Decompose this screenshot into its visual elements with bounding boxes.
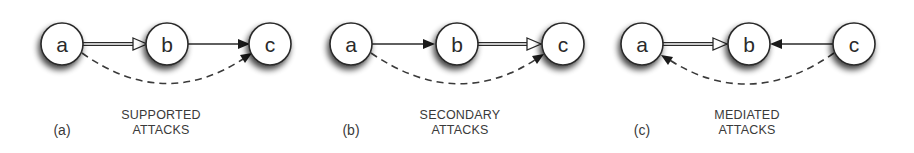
arrowhead-icon — [661, 55, 673, 65]
panel-a: a b c SUPPORTED ATTACKS (a) — [41, 23, 291, 138]
argument-diagram: a b c SUPPORTED ATTACKS (a) a b — [0, 0, 914, 153]
node-label: c — [849, 33, 860, 56]
node-label: a — [345, 33, 357, 56]
arrowhead-icon — [238, 39, 250, 49]
arrowhead-icon — [423, 39, 435, 49]
panel-id: (b) — [342, 122, 359, 138]
hollow-arrowhead-icon — [713, 38, 727, 50]
hollow-arrowhead-icon — [527, 38, 541, 50]
node-label: a — [56, 33, 68, 56]
caption-line1: SUPPORTED — [121, 108, 200, 122]
node-label: b — [743, 33, 755, 56]
caption-line2: ATTACKS — [431, 123, 488, 137]
hollow-arrowhead-icon — [133, 38, 147, 50]
caption-line1: SECONDARY — [420, 108, 501, 122]
node-label: b — [451, 33, 463, 56]
arrowhead-icon — [770, 39, 782, 49]
node-label: b — [161, 33, 173, 56]
panel-c: a b c MEDIATED ATTACKS (c) — [621, 23, 875, 138]
node-label: c — [558, 33, 569, 56]
caption-line2: ATTACKS — [132, 123, 189, 137]
panel-id: (a) — [53, 122, 70, 138]
arrowhead-icon — [240, 53, 252, 63]
caption-line2: ATTACKS — [718, 123, 775, 137]
node-label: a — [636, 33, 648, 56]
panel-id: (c) — [634, 122, 650, 138]
caption-line1: MEDIATED — [714, 108, 779, 122]
node-label: c — [265, 33, 276, 56]
arrowhead-icon — [532, 54, 544, 64]
panel-b: a b c SECONDARY ATTACKS (b) — [330, 23, 584, 138]
